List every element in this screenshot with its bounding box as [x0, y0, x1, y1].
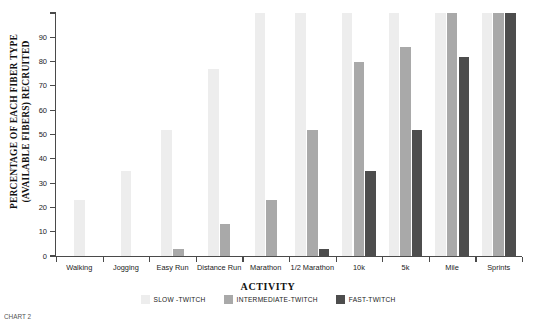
- y-axis-tick-label: 20: [28, 203, 47, 212]
- x-axis-tick-label: Distance Run: [196, 263, 243, 272]
- bar: [161, 130, 172, 256]
- bar: [255, 13, 266, 256]
- legend-label: FAST-TWITCH: [349, 296, 396, 303]
- bar: [412, 130, 423, 256]
- x-axis-tick: [522, 257, 523, 262]
- x-axis-tick-label: Marathon: [242, 263, 289, 272]
- bar: [220, 224, 231, 256]
- y-axis-tick-label: 50: [28, 130, 47, 139]
- bar: [365, 171, 376, 256]
- y-axis-tick-label: 10: [28, 227, 47, 236]
- y-axis-tick-label: 70: [28, 81, 47, 90]
- y-axis-tick-label: 60: [28, 106, 47, 115]
- legend-item[interactable]: FAST-TWITCH: [336, 295, 396, 304]
- bar: [173, 249, 184, 256]
- legend-item[interactable]: INTERMEDIATE-TWITCH: [224, 295, 318, 304]
- legend-swatch: [224, 295, 233, 304]
- figure-caption: CHART 2: [4, 313, 532, 320]
- bar: [354, 62, 365, 256]
- x-axis-tick-label: Mile: [429, 263, 476, 272]
- x-axis-title: ACTIVITY: [0, 281, 536, 292]
- legend-swatch: [336, 295, 345, 304]
- x-axis-tick: [242, 257, 243, 262]
- bar: [319, 249, 330, 256]
- x-axis-tick: [475, 257, 476, 262]
- x-axis-tick-label: Walking: [56, 263, 103, 272]
- bar-group: [389, 13, 423, 256]
- bar: [493, 13, 504, 256]
- bar: [74, 200, 85, 256]
- x-axis-tick-label: 5k: [382, 263, 429, 272]
- legend-label: SLOW -TWITCH: [154, 296, 206, 303]
- bar: [121, 171, 132, 256]
- bar-group: [255, 13, 277, 256]
- bar: [505, 13, 516, 256]
- x-axis-tick-label: 1/2 Marathon: [289, 263, 336, 272]
- x-axis-tick: [382, 257, 383, 262]
- x-axis-tick-label: Easy Run: [149, 263, 196, 272]
- chart-legend: SLOW -TWITCHINTERMEDIATE-TWITCHFAST-TWIT…: [0, 295, 536, 304]
- bar: [389, 13, 400, 256]
- x-axis-tick: [289, 257, 290, 262]
- chart-figure: PERCENTAGE OF EACH FIBER TYPE (AVAILABLE…: [0, 0, 536, 322]
- bar: [295, 13, 306, 256]
- y-axis-tick-label: 40: [28, 154, 47, 163]
- bar-group: [161, 13, 183, 256]
- x-axis-tick-label: 10k: [336, 263, 383, 272]
- x-axis-tick-label: Jogging: [103, 263, 150, 272]
- bar-group: [482, 13, 516, 256]
- bar-group: [74, 13, 85, 256]
- bar: [307, 130, 318, 256]
- bar: [459, 57, 470, 256]
- bar-group: [208, 13, 230, 256]
- bar: [208, 69, 219, 256]
- bar: [342, 13, 353, 256]
- x-axis-tick: [56, 257, 57, 262]
- x-axis-tick-label: Sprints: [475, 263, 522, 272]
- x-axis-tick: [336, 257, 337, 262]
- bar-group: [295, 13, 329, 256]
- bar-group: [435, 13, 469, 256]
- y-axis-tick-label: 80: [28, 57, 47, 66]
- bar: [266, 200, 277, 256]
- bar-group: [121, 13, 132, 256]
- bar: [400, 47, 411, 256]
- y-axis-title-line-1: PERCENTAGE OF EACH FIBER TYPE: [9, 6, 21, 238]
- bar: [435, 13, 446, 256]
- bar: [482, 13, 493, 256]
- x-axis-tick: [103, 257, 104, 262]
- x-axis-tick: [149, 257, 150, 262]
- x-axis-tick: [196, 257, 197, 262]
- plot-area: [56, 13, 522, 256]
- legend-swatch: [141, 295, 150, 304]
- bar-group: [342, 13, 376, 256]
- legend-label: INTERMEDIATE-TWITCH: [237, 296, 318, 303]
- y-axis-tick-label: 90: [28, 33, 47, 42]
- y-axis-tick-label: 30: [28, 179, 47, 188]
- bar: [447, 13, 458, 256]
- x-axis-tick: [429, 257, 430, 262]
- y-axis-tick-label: 0: [28, 252, 47, 261]
- legend-item[interactable]: SLOW -TWITCH: [141, 295, 206, 304]
